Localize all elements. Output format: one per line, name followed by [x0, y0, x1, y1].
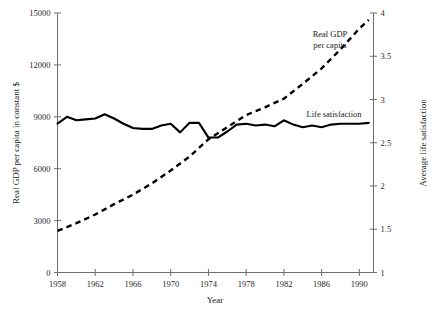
y-axis-right-tick-label: 2.5: [381, 138, 392, 148]
x-axis-tick-label: 1966: [124, 279, 141, 289]
series-real-gdp-per-capita: [58, 20, 369, 231]
y-axis-right-tick-label: 4: [381, 8, 386, 18]
y-axis-left-tick-label: 12000: [29, 60, 50, 70]
x-axis-tick-label: 1986: [313, 279, 330, 289]
x-axis-tick-label: 1974: [200, 279, 218, 289]
chart-svg: 03000600090001200015000 1958196219661970…: [0, 0, 442, 332]
y-axis-right-tick-label: 3.5: [381, 51, 392, 61]
x-axis-title: Year: [207, 295, 224, 305]
y-axis-left-tick-label: 0: [46, 268, 50, 278]
y-axis-right-tick-label: 2: [381, 181, 385, 191]
y-axis-right-tick-label: 1: [381, 268, 385, 278]
annotation-life-satisfaction: Life satisfaction: [307, 109, 363, 119]
y-axis-right-title: Average life satisfaction: [418, 99, 428, 187]
x-axis-tick-label: 1982: [275, 279, 292, 289]
x-axis-tick-label: 1962: [87, 279, 104, 289]
y-axis-left-tick-label: 3000: [34, 216, 51, 226]
y-axis-left-title: Real GDP per capita in constant $: [11, 81, 21, 204]
y-axis-left-tick-label: 15000: [29, 8, 50, 18]
x-axis-tick-label: 1990: [351, 279, 368, 289]
y-axis-right-tick-label: 3: [381, 95, 385, 105]
y-axis-right-tick-label: 1.5: [381, 224, 392, 234]
y-axis-left-tick-label: 9000: [34, 112, 51, 122]
x-axis-tick-label: 1970: [162, 279, 179, 289]
y-axis-left-ticks: 03000600090001200015000: [29, 8, 61, 278]
y-axis-left-tick-label: 6000: [34, 164, 51, 174]
x-axis-ticks: 195819621966197019741978198219861990: [49, 269, 368, 289]
x-axis-tick-label: 1978: [238, 279, 255, 289]
annotation-real-gdp-line1: Real GDP: [313, 29, 348, 39]
annotation-real-gdp-line2: per capita: [313, 40, 346, 50]
x-axis-tick-label: 1958: [49, 279, 66, 289]
chart-container: 03000600090001200015000 1958196219661970…: [0, 0, 442, 332]
